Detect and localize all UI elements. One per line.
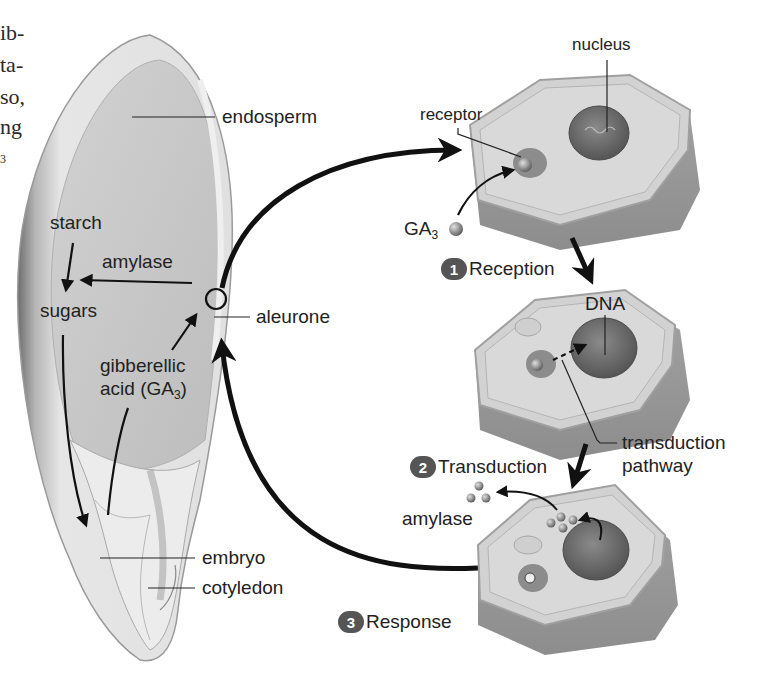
label-gibberellic: gibberellic: [100, 355, 186, 377]
label-cotyledon: cotyledon: [202, 577, 283, 599]
step-response: 3 Response: [338, 611, 452, 633]
step-label: Transduction: [438, 456, 547, 478]
label-sugars: sugars: [40, 300, 97, 322]
label-dna: DNA: [585, 293, 625, 315]
seed: [18, 35, 233, 661]
gibberellin-diagram: ib- ta- so, ng 3: [0, 0, 763, 684]
label-ga3: GA3: [404, 218, 438, 240]
step-reception: 1 Reception: [441, 258, 555, 280]
step-badge: 1: [441, 258, 467, 280]
cell-reception: [470, 75, 700, 250]
step-label: Reception: [469, 258, 555, 280]
label-starch: starch: [50, 212, 102, 234]
illustration: [0, 0, 763, 684]
step-transduction: 2 Transduction: [410, 456, 547, 478]
label-transduction-pathway-1: transduction: [622, 432, 726, 454]
label-receptor: receptor: [420, 104, 482, 126]
label-acid-ga3: acid (GA3): [100, 378, 187, 400]
step-badge: 3: [338, 611, 364, 633]
cell-response: [478, 485, 678, 655]
label-nucleus: nucleus: [572, 34, 631, 56]
label-amylase-seed: amylase: [102, 251, 173, 273]
label-transduction-pathway-2: pathway: [622, 455, 693, 477]
label-amylase-cell: amylase: [402, 508, 473, 530]
step-label: Response: [366, 611, 452, 633]
label-endosperm: endosperm: [222, 106, 317, 128]
ga3-molecule: [449, 222, 463, 236]
label-embryo: embryo: [202, 547, 265, 569]
step-badge: 2: [410, 456, 436, 478]
label-aleurone: aleurone: [256, 306, 330, 328]
